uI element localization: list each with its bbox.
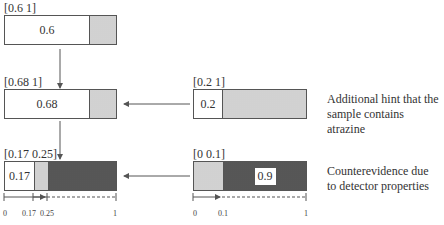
note-hint: Additional hint that the sample contains… (327, 92, 444, 137)
note-line: to detector properties (327, 179, 429, 194)
tick-label: 1 (113, 209, 117, 218)
disbelief-segment (48, 162, 116, 190)
note-line: Counterevidence due (327, 164, 429, 179)
disbelief-segment: 0.9 (223, 162, 306, 190)
evidence-box-2: 0.9 (193, 161, 307, 191)
uncertainty-segment (222, 90, 306, 118)
uncertainty-segment (194, 162, 223, 190)
note-line: sample contains atrazine (327, 107, 444, 137)
tick-label: 0 (193, 209, 197, 218)
note-counter: Counterevidence due to detector properti… (327, 164, 429, 194)
value-label: 0.2 (201, 97, 216, 112)
value-label: 0.9 (255, 168, 276, 185)
belief-box-2: 0.68 (4, 89, 117, 119)
value-label: 0.68 (37, 97, 58, 112)
belief-segment: 0.17 (5, 162, 34, 190)
uncertainty-segment (34, 162, 48, 190)
interval-label-5: [0 0.1] (193, 148, 225, 160)
tick-label: 1 (304, 209, 308, 218)
interval-label-2: [0.68 1] (4, 76, 42, 88)
interval-label-3: [0.17 0.25] (4, 148, 57, 160)
interval-label-1: [0.6 1] (4, 2, 36, 14)
uncertainty-segment (89, 90, 116, 118)
belief-segment: 0.68 (5, 90, 89, 118)
tick-label: 0 (3, 209, 7, 218)
tick-label: 0.1 (218, 209, 228, 218)
value-label: 0.17 (9, 169, 30, 184)
note-line: Additional hint that the (327, 92, 444, 107)
belief-segment: 0.6 (5, 16, 89, 44)
belief-box-1: 0.6 (4, 15, 117, 45)
evidence-box-1: 0.2 (193, 89, 307, 119)
uncertainty-segment (89, 16, 116, 44)
interval-label-4: [0.2 1] (193, 76, 225, 88)
tick-label: 0.25 (40, 209, 54, 218)
belief-segment: 0.2 (194, 90, 222, 118)
belief-box-3: 0.17 (4, 161, 117, 191)
tick-label: 0.17 (22, 209, 36, 218)
value-label: 0.6 (40, 23, 55, 38)
